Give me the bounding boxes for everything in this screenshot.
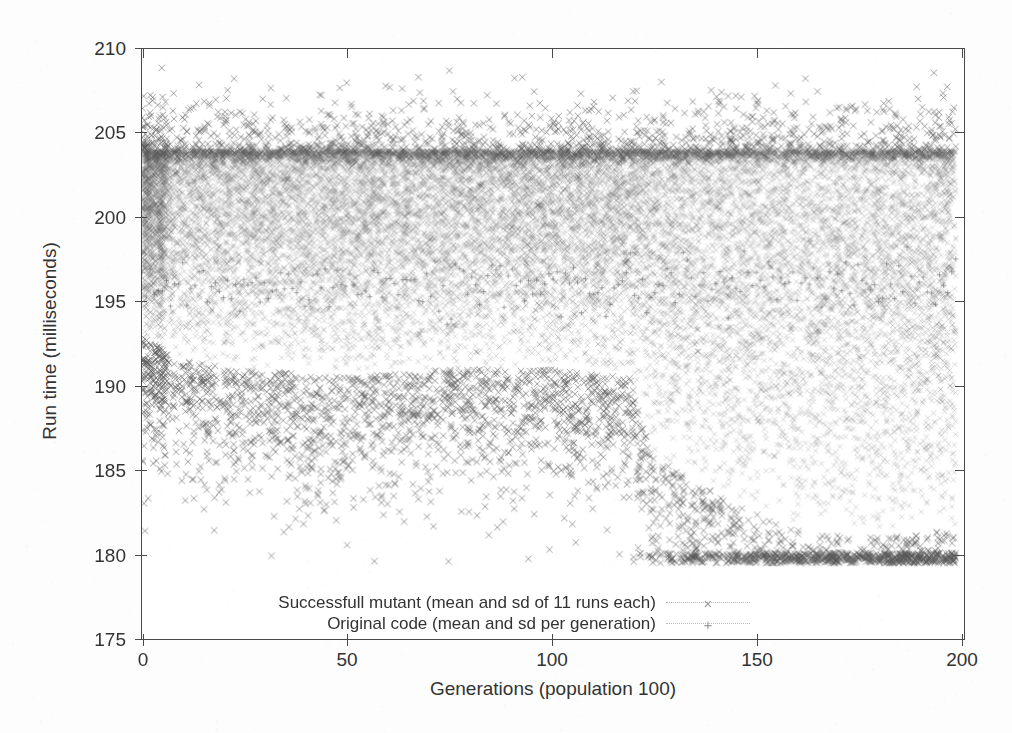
y-tick-200 [135,217,147,218]
legend-glyph-x: × [704,595,713,610]
x-axis-title: Generations (population 100) [141,678,965,700]
x-tick-50 [347,634,348,646]
plus-icon: + [666,616,750,632]
plot-area [141,48,965,640]
x-tick-top-150 [757,48,758,58]
x-tick-top-50 [347,48,348,58]
y-tick-190 [135,386,147,387]
y-tick-right-200 [955,217,965,218]
y-tick-right-180 [955,555,965,556]
x-tick-top-200 [962,48,963,58]
x-tick-label-150: 150 [741,650,773,669]
x-tick-150 [757,634,758,646]
y-axis-title: Run time (milliseconds) [39,131,61,551]
scatter-plot-canvas [142,49,964,639]
x-tick-label-100: 100 [536,650,568,669]
legend: Successfull mutant (mean and sd of 11 ru… [250,592,750,634]
y-tick-label-185: 185 [94,461,126,480]
x-tick-label-50: 50 [336,650,357,669]
y-tick-right-210 [955,48,965,49]
y-tick-right-205 [955,132,965,133]
x-tick-label-0: 0 [138,650,149,669]
x-tick-0 [143,634,144,646]
legend-glyph-plus: + [704,616,713,631]
y-tick-label-195: 195 [94,292,126,311]
y-tick-label-200: 200 [94,208,126,227]
y-tick-210 [135,48,147,49]
y-tick-label-210: 210 [94,39,126,58]
y-tick-right-195 [955,301,965,302]
y-tick-right-190 [955,386,965,387]
cross-x-icon: × [666,595,750,611]
legend-entry-successful-mutant: Successfull mutant (mean and sd of 11 ru… [250,592,750,613]
x-tick-top-100 [552,48,553,58]
x-tick-top-0 [143,48,144,58]
y-tick-175 [135,639,147,640]
legend-label-successful-mutant: Successfull mutant (mean and sd of 11 ru… [278,593,656,613]
legend-label-original-code: Original code (mean and sd per generatio… [327,614,656,634]
y-tick-label-180: 180 [94,546,126,565]
y-tick-180 [135,555,147,556]
y-tick-label-190: 190 [94,377,126,396]
y-tick-right-185 [955,470,965,471]
y-tick-205 [135,132,147,133]
y-tick-label-205: 205 [94,123,126,142]
x-tick-200 [962,634,963,646]
legend-entry-original-code: Original code (mean and sd per generatio… [250,613,750,634]
x-tick-label-200: 200 [946,650,978,669]
y-tick-185 [135,470,147,471]
figure-canvas: 210 205 200 195 190 185 180 175 0 50 100… [0,0,1012,733]
y-tick-195 [135,301,147,302]
x-tick-100 [552,634,553,646]
y-tick-label-175: 175 [94,630,126,649]
